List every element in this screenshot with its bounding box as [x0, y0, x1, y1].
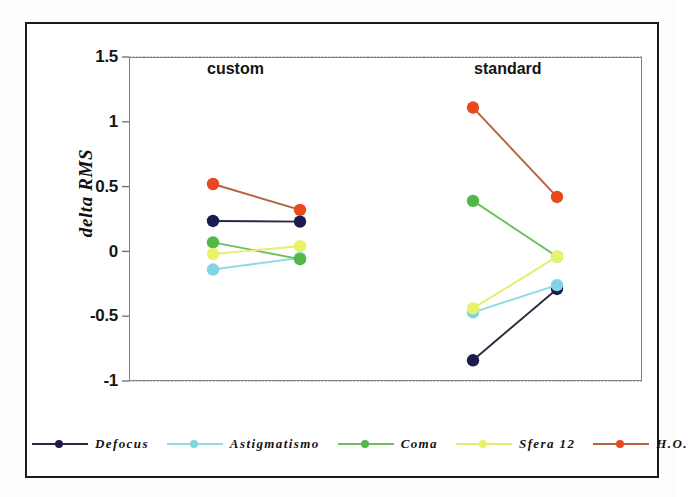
legend-marker-icon	[616, 440, 624, 448]
group-label-standard: standard	[474, 60, 542, 78]
plot-area	[129, 57, 642, 381]
legend-marker-icon	[190, 440, 198, 448]
legend-item[interactable]: Defocus	[32, 436, 149, 452]
legend-label: H.O.	[656, 436, 688, 452]
legend-item[interactable]: H.O.	[593, 436, 688, 452]
y-tick-label: 0	[72, 242, 118, 262]
legend-label: Defocus	[95, 436, 149, 452]
y-tick-label: 1.5	[72, 47, 118, 67]
legend-item[interactable]: Coma	[338, 436, 438, 452]
legend-swatch-icon	[32, 438, 88, 450]
y-tick-label: -0.5	[72, 306, 118, 326]
legend-label: Astigmatismo	[230, 436, 320, 452]
y-tick-label: 0.5	[72, 177, 118, 197]
y-tick-label: 1	[72, 112, 118, 132]
legend-swatch-icon	[167, 438, 223, 450]
y-tick-label: -1	[72, 371, 118, 391]
legend-marker-icon	[55, 440, 63, 448]
legend-marker-icon	[361, 440, 369, 448]
legend-swatch-icon	[338, 438, 394, 450]
legend-item[interactable]: Astigmatismo	[167, 436, 320, 452]
legend-swatch-icon	[456, 438, 512, 450]
legend-label: Sfera 12	[519, 436, 575, 452]
legend: DefocusAstigmatismoComaSfera 12H.O.	[32, 427, 652, 461]
legend-marker-icon	[479, 440, 487, 448]
legend-item[interactable]: Sfera 12	[456, 436, 575, 452]
group-label-custom: custom	[207, 60, 264, 78]
legend-swatch-icon	[593, 438, 649, 450]
legend-label: Coma	[401, 436, 438, 452]
